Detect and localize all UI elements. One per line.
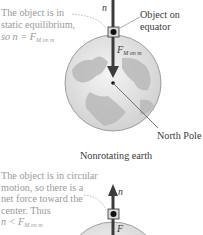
equator-leader [120, 17, 140, 28]
circular-motion-note: The object is in circular motion, so the… [1, 170, 98, 232]
object-on-equator-label: Object on equator [140, 9, 180, 33]
nonrotating-earth-caption: Nonrotating earth [80, 150, 152, 162]
note-equation: n < FM on m [1, 216, 98, 232]
note-line: net force toward the [1, 193, 98, 205]
note-leader-top [72, 14, 106, 28]
note-line: motion, so there is a [1, 182, 98, 194]
note-line: The object is in circular [1, 170, 98, 182]
gravity-force-label: FM on m [117, 44, 142, 59]
gravity-force-label-bottom: F [117, 223, 123, 235]
north-pole-label: North Pole [157, 130, 201, 142]
normal-force-label-bottom: n [118, 186, 123, 198]
note-line: static equilibrium, [1, 19, 75, 31]
normal-force-label: n [102, 2, 107, 14]
note-line: The object is in [1, 7, 75, 19]
label-line: equator [140, 21, 180, 33]
note-line: center. Thus [1, 205, 98, 217]
label-line: Object on [140, 9, 180, 21]
note-equation: so n = FM on m [1, 31, 75, 46]
static-equilibrium-note: The object is in static equilibrium, so … [1, 7, 75, 46]
